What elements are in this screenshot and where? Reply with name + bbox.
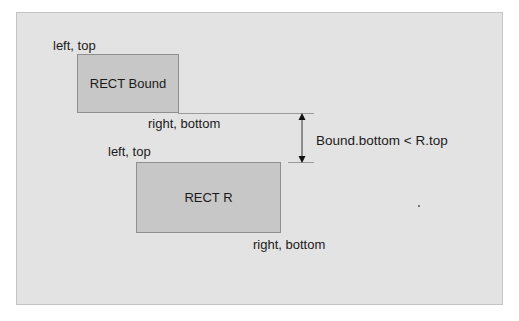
rect-r: RECT R: [136, 162, 281, 233]
bound-bottom-guide-line: [178, 113, 314, 114]
stray-dot: [418, 205, 420, 207]
rect-bound-label: RECT Bound: [90, 76, 166, 91]
rect-r-label: RECT R: [184, 190, 232, 205]
r-left-top-label: left, top: [108, 144, 151, 159]
bound-right-bottom-label: right, bottom: [148, 116, 220, 131]
r-right-bottom-label: right, bottom: [253, 237, 325, 252]
dimension-label: Bound.bottom < R.top: [316, 133, 448, 148]
rect-bound: RECT Bound: [77, 54, 179, 113]
bound-left-top-label: left, top: [53, 38, 96, 53]
double-headed-arrow-icon: [296, 113, 308, 163]
